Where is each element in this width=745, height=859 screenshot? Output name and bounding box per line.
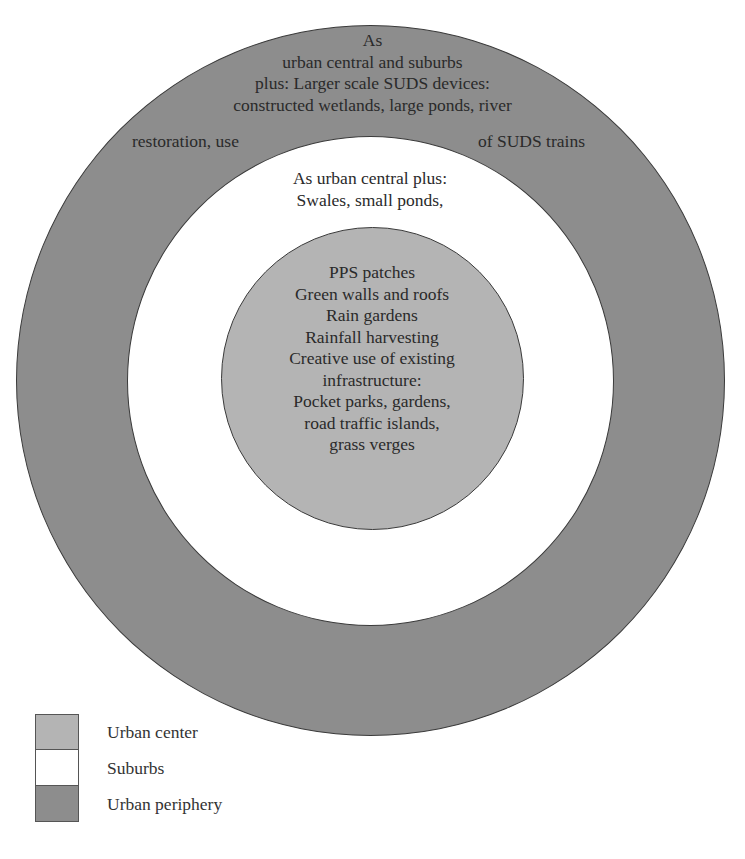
periphery-line-right: of SUDS trains [478, 131, 585, 153]
periphery-line: constructed wetlands, large ponds, river [0, 95, 745, 117]
center-line: grass verges [222, 434, 522, 456]
legend-item-suburbs: Suburbs [35, 750, 222, 786]
legend-item-urban-periphery: Urban periphery [35, 786, 222, 822]
center-line: Pocket parks, gardens, [222, 391, 522, 413]
periphery-line: plus: Larger scale SUDS devices: [0, 73, 745, 95]
periphery-line-left: restoration, use [132, 131, 239, 153]
legend-swatch-urban-center [35, 714, 79, 750]
suburbs-line: Swales, small ponds, [170, 190, 570, 212]
center-line: road traffic islands, [222, 413, 522, 435]
suburbs-line: As urban central plus: [170, 168, 570, 190]
center-line: Green walls and roofs [222, 284, 522, 306]
legend-label: Suburbs [107, 758, 164, 779]
center-line: Creative use of existing [222, 348, 522, 370]
urban-center-text: PPS patches Green walls and roofs Rain g… [222, 262, 522, 456]
center-line: Rainfall harvesting [222, 327, 522, 349]
center-line: Rain gardens [222, 305, 522, 327]
legend: Urban center Suburbs Urban periphery [35, 714, 222, 822]
urban-periphery-text: As urban central and suburbs plus: Large… [0, 30, 745, 116]
center-line: PPS patches [222, 262, 522, 284]
suburbs-text: As urban central plus: Swales, small pon… [170, 168, 570, 211]
legend-swatch-suburbs [35, 750, 79, 786]
legend-label: Urban center [107, 722, 198, 743]
periphery-line: As [0, 30, 745, 52]
center-line: infrastructure: [222, 370, 522, 392]
legend-item-urban-center: Urban center [35, 714, 222, 750]
legend-swatch-urban-periphery [35, 786, 79, 822]
periphery-line: urban central and suburbs [0, 52, 745, 74]
legend-label: Urban periphery [107, 794, 222, 815]
